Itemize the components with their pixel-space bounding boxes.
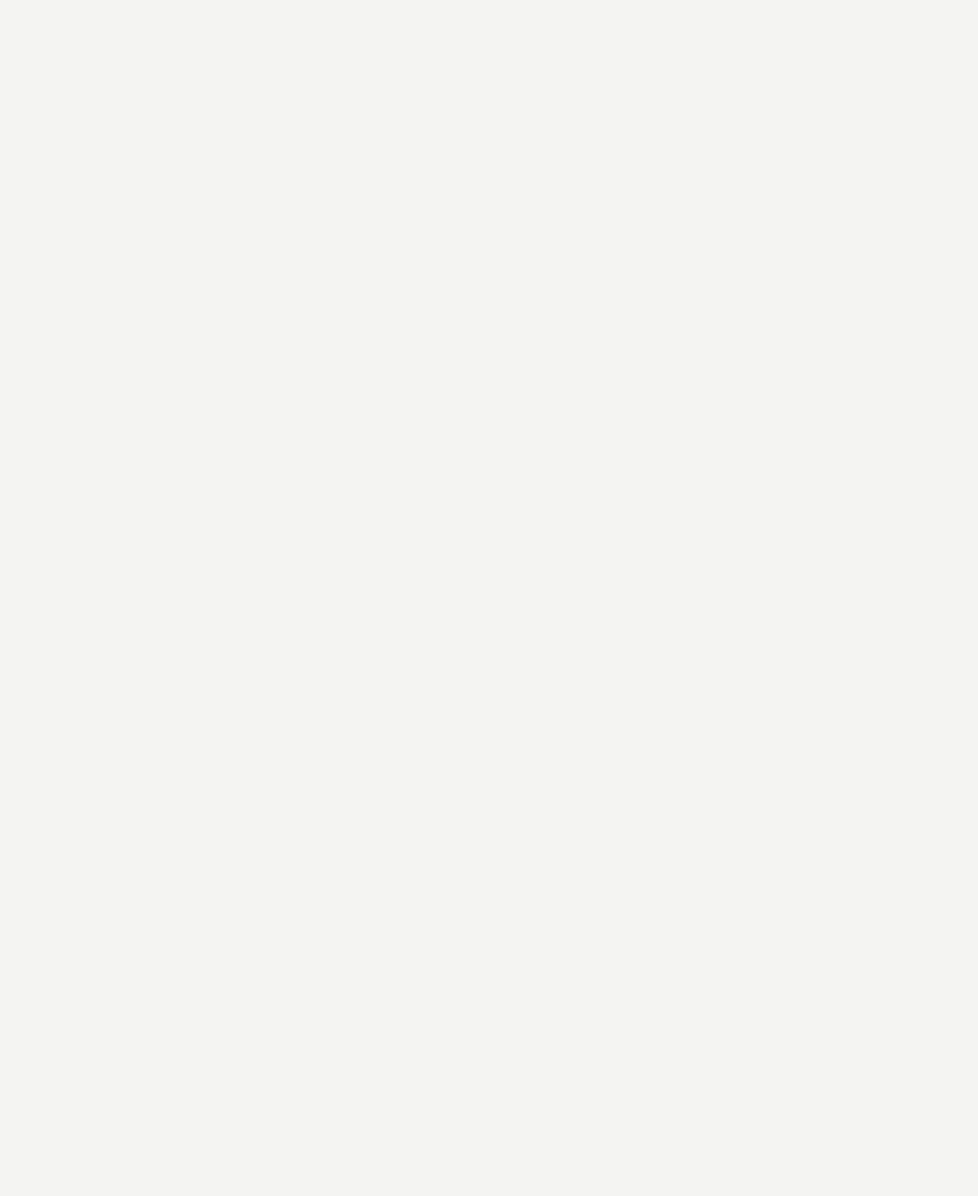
game-board[interactable]: [0, 0, 978, 1196]
